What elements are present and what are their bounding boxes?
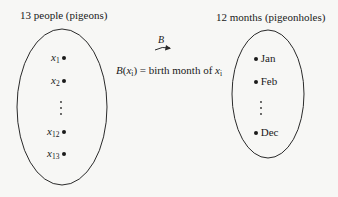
right-ellipsis-dots <box>260 101 262 115</box>
month-jan: Jan <box>254 52 275 64</box>
point-marker <box>62 130 66 134</box>
month-dec: Dec <box>254 126 278 138</box>
pigeon-x2: x2 <box>51 74 66 88</box>
left-set-title: 13 people (pigeons) <box>20 9 107 21</box>
point-marker <box>62 79 66 83</box>
point-marker <box>254 131 258 135</box>
pigeon-x1: x1 <box>51 51 66 65</box>
month-feb: Feb <box>254 75 277 87</box>
mapping-formula: B(xi) = birth month of xi <box>116 64 222 78</box>
right-set-ellipse <box>232 30 304 158</box>
pigeon-x13: x13 <box>47 147 66 161</box>
left-ellipsis-dots <box>60 101 62 115</box>
point-marker <box>62 56 66 60</box>
point-marker <box>254 80 258 84</box>
pigeon-x12: x12 <box>47 125 66 139</box>
point-marker <box>62 152 66 156</box>
diagram-canvas <box>0 0 338 197</box>
right-set-title: 12 months (pigeonholes) <box>216 11 325 23</box>
mapping-arrow-icon <box>155 45 171 51</box>
point-marker <box>254 57 258 61</box>
mapping-arrow-label: B <box>158 34 164 45</box>
